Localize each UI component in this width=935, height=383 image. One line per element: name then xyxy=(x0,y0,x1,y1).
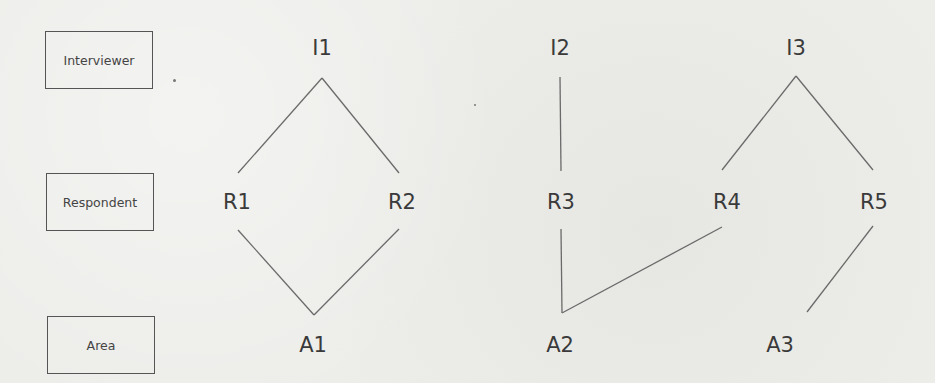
node-i2: I2 xyxy=(550,38,570,59)
node-a1: A1 xyxy=(299,335,327,356)
node-r1: R1 xyxy=(223,192,251,213)
node-i1: I1 xyxy=(312,38,332,59)
edge-i1-r1 xyxy=(238,78,322,173)
node-a3: A3 xyxy=(766,335,794,356)
edge-r3-a2 xyxy=(561,229,562,313)
node-a2: A2 xyxy=(546,335,574,356)
edge-r5-a3 xyxy=(807,226,873,312)
node-r4: R4 xyxy=(713,192,741,213)
edge-i3-r5 xyxy=(796,76,873,170)
scan-speck xyxy=(474,104,476,106)
edge-i3-r4 xyxy=(722,76,796,170)
edge-i2-r3 xyxy=(560,77,561,171)
edge-r4-a2 xyxy=(562,227,722,313)
node-r2: R2 xyxy=(388,192,416,213)
node-r5: R5 xyxy=(860,192,888,213)
edge-r1-a1 xyxy=(238,230,314,315)
edge-r2-a1 xyxy=(314,229,399,315)
scan-speck xyxy=(173,79,176,82)
node-r3: R3 xyxy=(547,192,575,213)
node-i3: I3 xyxy=(786,38,806,59)
edge-i1-r2 xyxy=(322,78,399,173)
